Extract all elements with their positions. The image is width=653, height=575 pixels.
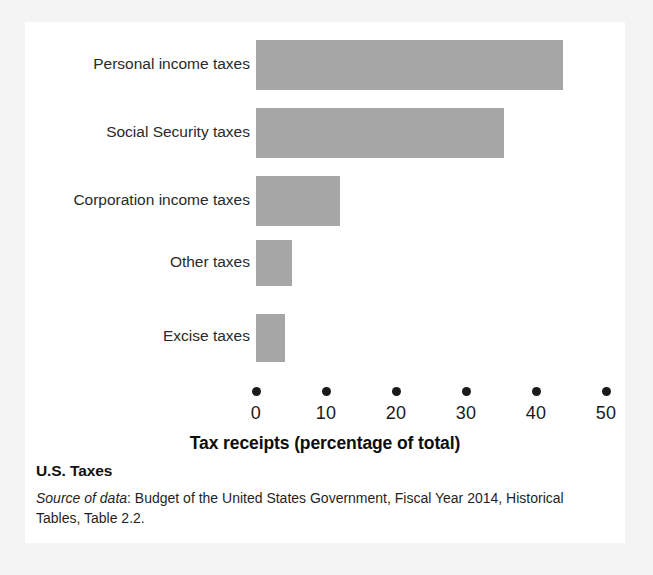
x-tick-label: 0 [236, 403, 276, 424]
caption-source: Source of data: Budget of the United Sta… [36, 489, 596, 529]
chart-row: Other taxes [25, 240, 625, 286]
x-tick-40: 40 [516, 387, 556, 424]
x-tick-50: 50 [586, 387, 626, 424]
x-tick-20: 20 [376, 387, 416, 424]
x-tick-label: 30 [446, 403, 486, 424]
x-tick-label: 40 [516, 403, 556, 424]
x-axis: 0 10 20 30 40 50 Tax recei [25, 387, 625, 457]
category-label: Excise taxes [25, 327, 250, 345]
tick-dot-icon [322, 387, 331, 396]
page-background: Personal income taxes Social Security ta… [0, 0, 653, 575]
category-label: Social Security taxes [25, 123, 250, 141]
bar-corporation-income-taxes [256, 176, 340, 226]
tick-dot-icon [252, 387, 261, 396]
figure-caption: U.S. Taxes Source of data: Budget of the… [36, 462, 596, 529]
tick-dot-icon [392, 387, 401, 396]
category-label: Corporation income taxes [25, 191, 250, 209]
figure-card: Personal income taxes Social Security ta… [25, 22, 625, 543]
bar-social-security-taxes [256, 108, 504, 158]
source-separator: : [127, 490, 135, 506]
x-tick-label: 50 [586, 403, 626, 424]
chart-row: Social Security taxes [25, 108, 625, 158]
category-label: Personal income taxes [25, 55, 250, 73]
x-tick-10: 10 [306, 387, 346, 424]
x-tick-0: 0 [236, 387, 276, 424]
chart-row: Corporation income taxes [25, 176, 625, 226]
category-label: Other taxes [25, 253, 250, 271]
bar-other-taxes [256, 240, 292, 286]
bar-excise-taxes [256, 314, 285, 362]
tick-dot-icon [532, 387, 541, 396]
tick-dot-icon [462, 387, 471, 396]
x-axis-title: Tax receipts (percentage of total) [25, 433, 625, 454]
tick-dot-icon [602, 387, 611, 396]
source-of-data-label: Source of data [36, 490, 127, 506]
bar-chart-plot-area: Personal income taxes Social Security ta… [25, 22, 625, 372]
x-tick-label: 20 [376, 403, 416, 424]
x-tick-label: 10 [306, 403, 346, 424]
caption-title: U.S. Taxes [36, 462, 596, 480]
bar-personal-income-taxes [256, 40, 563, 90]
chart-row: Excise taxes [25, 314, 625, 362]
chart-row: Personal income taxes [25, 40, 625, 90]
x-tick-30: 30 [446, 387, 486, 424]
